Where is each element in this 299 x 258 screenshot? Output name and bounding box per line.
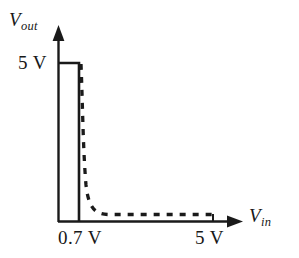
y-axis-arrowhead-icon <box>53 25 65 41</box>
y-axis-label: Vout <box>9 10 37 29</box>
x-axis-tick-label-0-7v: 0.7 V <box>58 228 102 247</box>
x-axis-tick-label-5v: 5 V <box>195 228 224 247</box>
transfer-characteristic-figure: Vout Vin 5 V 0.7 V 5 V <box>0 0 299 258</box>
y-axis-label-symbol: V <box>9 9 21 30</box>
y-axis-tick-label-5v: 5 V <box>18 53 47 72</box>
x-axis-arrowhead-icon <box>227 216 243 228</box>
x-axis-label: Vin <box>249 206 271 225</box>
y-axis <box>53 25 65 222</box>
x-axis <box>58 216 243 228</box>
actual-curve-dashed <box>81 64 213 215</box>
y-axis-label-subscript: out <box>21 19 38 33</box>
ideal-curve-solid <box>59 63 80 222</box>
x-axis-label-symbol: V <box>249 205 261 226</box>
x-axis-label-subscript: in <box>261 215 271 229</box>
